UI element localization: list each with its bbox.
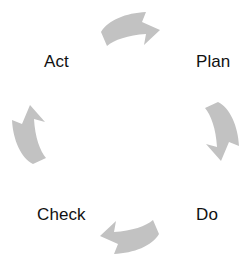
arrow-top-right-pointing-icon xyxy=(101,12,160,46)
arrow-right-down-pointing-icon xyxy=(205,102,239,161)
arrow-bottom-left-pointing-icon xyxy=(100,220,159,254)
arrow-left-up-pointing-icon xyxy=(12,105,46,164)
cycle-label-check: Check xyxy=(37,205,86,224)
cycle-label-act: Act xyxy=(44,52,69,71)
cycle-arrows-group xyxy=(0,0,251,266)
pdca-cycle-diagram: Act Plan Check Do xyxy=(0,0,251,266)
cycle-label-do: Do xyxy=(196,205,218,224)
cycle-label-plan: Plan xyxy=(196,52,230,71)
